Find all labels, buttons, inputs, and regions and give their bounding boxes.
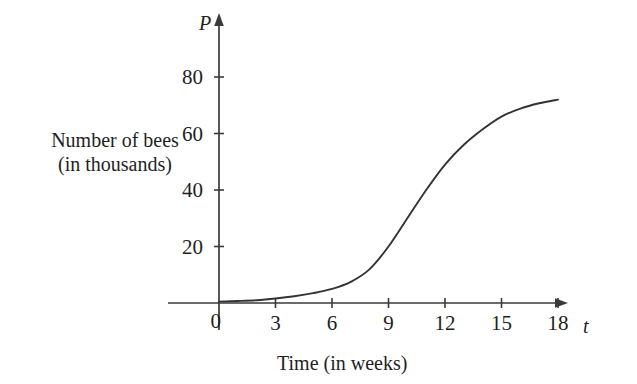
y-axis-tick-label: 0 [181, 309, 221, 334]
y-axis-tick-label: 20 [163, 235, 203, 260]
x-axis-tick-label: 9 [369, 311, 409, 336]
y-axis-title-line-2: (in thousands) [10, 153, 220, 177]
x-axis-tick-label: 15 [482, 311, 522, 336]
x-axis-tick-label: 3 [256, 311, 296, 336]
y-axis-arrowhead [214, 13, 224, 26]
y-axis-variable-label: P [199, 12, 211, 36]
x-axis-title: Time (in weeks) [277, 352, 407, 376]
x-axis-variable-label: t [583, 315, 589, 339]
y-axis-tick-label: 80 [163, 65, 203, 90]
x-axis-tick-label: 12 [425, 311, 465, 336]
x-axis-arrowhead [555, 298, 568, 308]
x-axis [168, 298, 568, 308]
data-curve [219, 100, 558, 302]
x-axis-tick-label: 18 [538, 311, 578, 336]
x-axis-tick-label: 6 [312, 311, 352, 336]
y-axis-tick-label: 40 [163, 178, 203, 203]
figure-container: P t Number of bees (in thousands) Time (… [0, 0, 637, 384]
y-axis-tick-label: 60 [163, 122, 203, 147]
